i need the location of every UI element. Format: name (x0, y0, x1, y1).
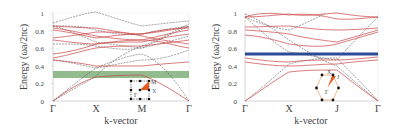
right-ytick-0: 0 (234, 98, 238, 106)
inset-label-m: M (151, 79, 157, 85)
left-xtick-m: M (138, 103, 147, 114)
right-ytick-0.4: 0.4 (228, 63, 237, 71)
left-x-axis-label: k-vector (104, 115, 138, 126)
right-y-axis-label: Energy (ωa/2πc) (210, 24, 222, 90)
right-xtick-gamma-end: Γ (375, 103, 381, 114)
inset-label-j: J (337, 74, 340, 80)
right-ytick-0.6: 0.6 (228, 45, 237, 53)
left-y-axis-label: Energy (ωa/2πc) (18, 24, 30, 90)
right-ytick-1: 1 (234, 10, 238, 18)
left-ytick-0: 0 (41, 98, 45, 106)
right-x-axis-label: k-vector (294, 115, 328, 126)
left-xtick-gamma-end: Γ (186, 103, 192, 114)
left-band-gap (53, 71, 189, 78)
right-band-gap (245, 53, 378, 56)
inset-label-gamma: Γ (134, 92, 138, 98)
inset-label-x: X (152, 88, 157, 94)
left-ytick-0.4: 0.4 (35, 63, 44, 71)
right-inset-hex-lattice: X J Γ (315, 69, 340, 101)
irreducible-zone-triangle (140, 81, 149, 90)
inset-label-x: X (327, 69, 332, 75)
left-xtick-x: X (92, 103, 100, 114)
irreducible-zone-triangle (328, 76, 337, 88)
left-ytick-0.2: 0.2 (35, 80, 44, 88)
inset-label-gamma: Γ (325, 89, 329, 95)
left-ytick-0.6: 0.6 (35, 45, 44, 53)
right-xtick-x: X (285, 103, 293, 114)
right-ytick-0.2: 0.2 (228, 80, 237, 88)
right-xtick-gamma-start: Γ (242, 103, 248, 114)
left-inset-square-lattice: M X Γ (130, 79, 157, 100)
left-band-diagram: 1 0.8 0.6 0.4 0.2 0 Energy (ωa/2πc) (18, 10, 192, 126)
left-ytick-1: 1 (41, 10, 45, 18)
left-ytick-0.8: 0.8 (35, 28, 44, 36)
left-xtick-gamma-start: Γ (50, 103, 56, 114)
right-xtick-j: J (335, 103, 339, 114)
right-band-diagram: 1 0.8 0.6 0.4 0.2 0 Energy (ωa/2πc) (210, 10, 381, 126)
figure: 1 0.8 0.6 0.4 0.2 0 Energy (ωa/2πc) (0, 0, 398, 132)
right-ytick-0.8: 0.8 (228, 28, 237, 36)
right-te-bands (245, 13, 378, 101)
